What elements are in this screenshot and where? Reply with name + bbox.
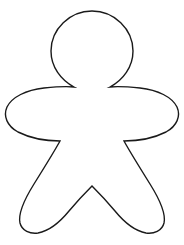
canvas-root [0, 0, 184, 245]
gingerbread-person-figure [0, 0, 184, 245]
